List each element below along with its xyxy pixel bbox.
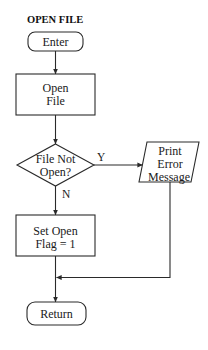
node-print-error-line-3: Message (148, 170, 190, 184)
node-return: Return (27, 302, 86, 325)
flowchart-open-file: OPEN FILE Enter Open File File Not Open?… (0, 0, 208, 350)
node-return-label: Return (40, 307, 73, 321)
node-open-file: Open File (16, 74, 95, 115)
node-print-error-line-2: Error (157, 157, 182, 171)
node-enter: Enter (28, 32, 83, 51)
node-print-error-line-1: Print (158, 144, 182, 158)
node-open-file-line-1: Open (43, 81, 69, 95)
node-decision-line-1: File Not (36, 152, 76, 166)
diagram-title: OPEN FILE (27, 14, 83, 25)
node-set-flag: Set Open Flag = 1 (16, 215, 95, 256)
node-decision: File Not Open? (17, 144, 94, 186)
node-set-flag-line-2: Flag = 1 (35, 237, 75, 251)
node-enter-label: Enter (43, 35, 69, 49)
node-print-error: Print Error Message (139, 142, 199, 184)
node-open-file-line-2: File (46, 94, 65, 108)
node-decision-line-2: Open? (40, 165, 71, 179)
edge-label-yes: Y (97, 151, 106, 163)
node-set-flag-line-1: Set Open (33, 224, 77, 238)
edge-label-no: N (62, 188, 71, 200)
